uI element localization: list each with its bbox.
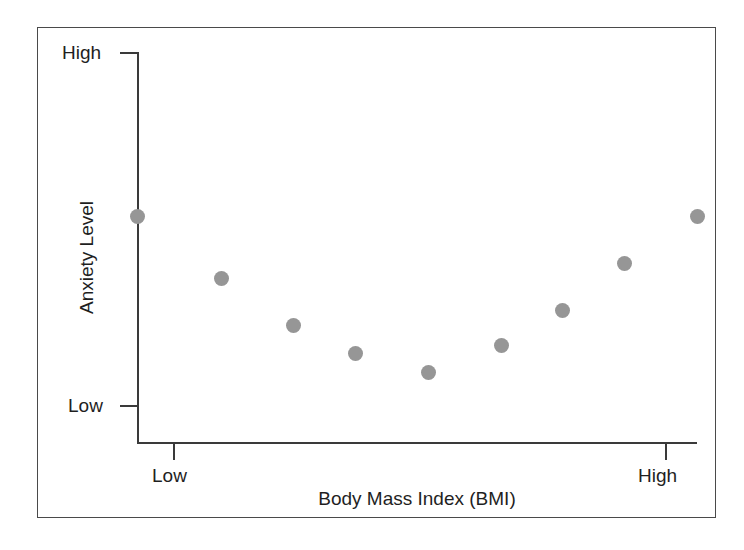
y-axis-title: Anxiety Level: [77, 168, 96, 348]
y-axis-tick-high: [120, 52, 137, 54]
x-axis-tick-low: [173, 443, 175, 460]
data-point: [555, 303, 570, 318]
figure-root: High Low Low High Anxiety Level Body Mas…: [0, 0, 744, 550]
data-point: [617, 256, 632, 271]
data-point: [348, 346, 363, 361]
data-point: [214, 271, 229, 286]
x-axis-tick-label-high: High: [638, 466, 677, 485]
y-axis-tick-label-low: Low: [68, 396, 103, 415]
plot-area: [137, 52, 697, 443]
x-axis-title: Body Mass Index (BMI): [137, 489, 697, 508]
data-point: [421, 365, 436, 380]
y-axis-tick-low: [120, 405, 137, 407]
data-point: [690, 209, 705, 224]
data-point: [130, 209, 145, 224]
x-axis-tick-high: [665, 443, 667, 460]
data-point: [286, 318, 301, 333]
data-point: [494, 338, 509, 353]
x-axis-tick-label-low: Low: [152, 466, 187, 485]
y-axis-tick-label-high: High: [62, 43, 101, 62]
